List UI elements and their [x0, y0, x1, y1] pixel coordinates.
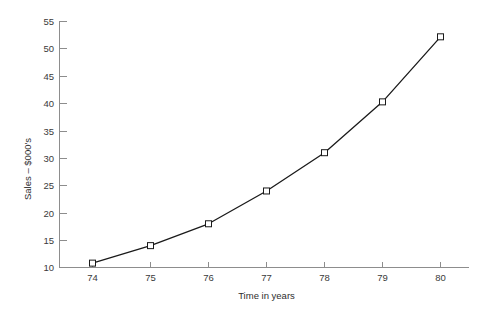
y-tick-label-35: 35: [43, 126, 54, 137]
y-axis-ticks: [60, 22, 67, 268]
x-axis-ticks: [93, 262, 441, 268]
x-tick-label-76: 76: [203, 272, 214, 283]
y-tick-label-40: 40: [43, 98, 54, 109]
data-point-74: [90, 260, 96, 266]
data-point-77: [264, 188, 270, 194]
data-point-78: [322, 150, 328, 156]
y-tick-label-25: 25: [43, 180, 54, 191]
line-chart: 55 50 45 40 35 30 25 20 15 10 74 75 76 7…: [0, 0, 481, 309]
y-tick-label-50: 50: [43, 43, 54, 54]
x-tick-label-75: 75: [145, 272, 156, 283]
sales-line-series: [93, 37, 441, 263]
x-tick-label-74: 74: [87, 272, 98, 283]
y-tick-label-15: 15: [43, 235, 54, 246]
y-axis-tick-labels: 55 50 45 40 35 30 25 20 15 10: [43, 16, 54, 273]
y-tick-label-55: 55: [43, 16, 54, 27]
chart-container: 55 50 45 40 35 30 25 20 15 10 74 75 76 7…: [0, 0, 481, 309]
x-tick-label-78: 78: [319, 272, 330, 283]
y-tick-label-10: 10: [43, 262, 54, 273]
data-point-75: [148, 243, 154, 249]
x-axis-title: Time in years: [238, 290, 295, 301]
x-tick-label-80: 80: [435, 272, 446, 283]
x-axis-tick-labels: 74 75 76 77 78 79 80: [87, 272, 446, 283]
y-tick-label-20: 20: [43, 208, 54, 219]
y-tick-label-45: 45: [43, 71, 54, 82]
x-tick-label-77: 77: [261, 272, 272, 283]
data-point-80: [438, 34, 444, 40]
x-tick-label-79: 79: [377, 272, 388, 283]
data-point-markers: [90, 34, 444, 266]
data-point-76: [206, 221, 212, 227]
data-point-79: [380, 99, 386, 105]
y-axis-title: Sales – $000's: [22, 138, 33, 200]
y-tick-label-30: 30: [43, 153, 54, 164]
